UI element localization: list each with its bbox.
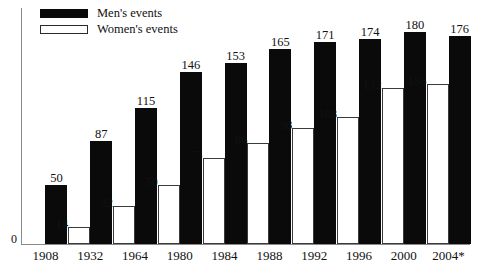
bar-group: 73153 (203, 8, 247, 244)
bar-group: 98171 (292, 8, 336, 244)
bar-womens-events: 136 (427, 84, 449, 244)
bar-value-label: 50 (145, 176, 158, 189)
x-axis-tick-labels: 1908193219641980198419881992199620002004… (22, 248, 470, 268)
bar-value-label: 32 (101, 197, 114, 210)
origin-tick-label: 0 (11, 232, 17, 247)
bar-womens-events: 14 (68, 227, 90, 244)
bar-mens-events: 153 (225, 63, 247, 244)
bar-value-label: 165 (271, 36, 290, 49)
bar-group: 32115 (113, 8, 157, 244)
bar-womens-events: 32 (113, 206, 135, 244)
x-tick-label: 1992 (301, 248, 327, 264)
bar-value-label: 73 (190, 149, 203, 162)
bar-value-label: 87 (95, 128, 108, 141)
bar-value-label: 174 (361, 26, 380, 39)
bar-value-label: 171 (316, 29, 335, 42)
x-tick-label: 1984 (212, 248, 238, 264)
bar-womens-events: 50 (158, 185, 180, 244)
bar-mens-events: 176 (449, 36, 471, 244)
bar-mens-events: 87 (90, 141, 112, 244)
bar-group: 50146 (158, 8, 202, 244)
bar-womens-events: 86 (247, 143, 269, 244)
x-axis-line (21, 244, 470, 245)
bar-mens-events: 174 (359, 39, 381, 244)
bar-group: 50 (23, 8, 67, 244)
bar-chart: Men's events Women's events 0 5014873211… (0, 0, 489, 273)
x-tick-label: 1964 (122, 248, 148, 264)
plot-area: 5014873211550146731538616598171108174132… (22, 8, 470, 244)
bar-value-label: 146 (181, 59, 200, 72)
x-tick-label: 2004* (432, 248, 465, 264)
bar-mens-events: 180 (404, 32, 426, 244)
x-tick-label: 1988 (256, 248, 282, 264)
bar-value-label: 86 (235, 134, 248, 147)
bar-mens-events: 50 (45, 185, 67, 244)
x-tick-label: 1932 (77, 248, 103, 264)
bar-value-label: 153 (226, 50, 245, 63)
bar-group: 108174 (337, 8, 381, 244)
bar-group: 132180 (382, 8, 426, 244)
bar-value-label: 14 (56, 218, 69, 231)
x-tick-label: 1996 (346, 248, 372, 264)
bar-mens-events: 165 (269, 49, 291, 244)
bar-womens-events: 132 (382, 88, 404, 244)
bar-womens-events: 108 (337, 117, 359, 244)
bar-value-label: 108 (318, 108, 337, 121)
bar-value-label: 132 (363, 79, 382, 92)
bar-value-label: 136 (408, 75, 427, 88)
bar-womens-events: 73 (203, 158, 225, 244)
x-tick-label: 1980 (167, 248, 193, 264)
bar-mens-events: 171 (314, 42, 336, 244)
bar-womens-events: 98 (292, 128, 314, 244)
bar-value-label: 50 (50, 172, 63, 185)
x-tick-label: 1908 (32, 248, 58, 264)
bar-group: 136176 (427, 8, 471, 244)
bar-value-label: 176 (450, 23, 469, 36)
bar-value-label: 98 (280, 119, 293, 132)
bar-value-label: 115 (137, 95, 155, 108)
bar-value-label: 180 (405, 19, 424, 32)
x-tick-label: 2000 (391, 248, 417, 264)
